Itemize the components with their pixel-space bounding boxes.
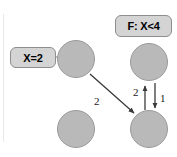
tag-assignment[interactable]: X=2 [10, 47, 56, 68]
node-bottom-right[interactable] [130, 110, 168, 148]
tag-constraint-label: F: X<4 [127, 20, 159, 32]
node-bottom-left[interactable] [57, 110, 95, 148]
edge-up-label: 2 [133, 87, 139, 98]
tag-assignment-label: X=2 [23, 52, 42, 64]
edge-diagonal-label: 2 [94, 96, 100, 107]
edge-diagonal-line [90, 74, 134, 113]
edge-down-label: 1 [160, 93, 166, 104]
tag-constraint[interactable]: F: X<4 [115, 15, 172, 37]
node-top-right[interactable] [130, 43, 168, 81]
node-top-left[interactable] [57, 40, 95, 78]
diagram-canvas: X=2 F: X<4 2 2 1 [0, 0, 177, 157]
